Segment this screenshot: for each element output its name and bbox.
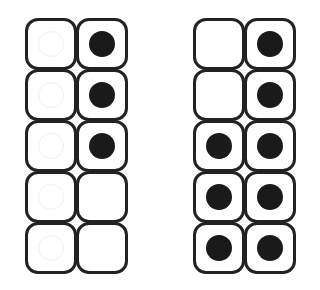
frame-cell (193, 171, 245, 223)
frame-cell (76, 222, 128, 274)
faint-circle-icon (38, 133, 64, 159)
faint-circle-icon (38, 31, 64, 57)
counter-dot-icon (206, 184, 232, 210)
counter-dot-icon (257, 235, 283, 261)
frame-cell (193, 222, 245, 274)
frame-cell (193, 18, 245, 70)
frame-cell (76, 171, 128, 223)
counter-dot-icon (89, 133, 115, 159)
ten-frame-right (193, 18, 296, 273)
frame-cell (25, 222, 77, 274)
counter-dot-icon (257, 133, 283, 159)
frame-cell (193, 120, 245, 172)
counter-dot-icon (257, 82, 283, 108)
counter-dot-icon (89, 82, 115, 108)
frame-cell (25, 171, 77, 223)
counter-dot-icon (206, 235, 232, 261)
frame-cell (76, 69, 128, 121)
frame-cell (25, 69, 77, 121)
frame-cell (76, 120, 128, 172)
frame-cell (25, 18, 77, 70)
counter-dot-icon (257, 31, 283, 57)
counter-dot-icon (89, 31, 115, 57)
counter-dot-icon (257, 184, 283, 210)
frame-cell (244, 120, 296, 172)
frame-cell (244, 69, 296, 121)
counter-dot-icon (206, 133, 232, 159)
frame-cell (193, 69, 245, 121)
faint-circle-icon (38, 184, 64, 210)
ten-frame-left (25, 18, 128, 273)
faint-circle-icon (38, 82, 64, 108)
faint-circle-icon (38, 235, 64, 261)
frame-cell (244, 222, 296, 274)
frame-cell (244, 18, 296, 70)
frame-cell (76, 18, 128, 70)
frame-cell (244, 171, 296, 223)
frame-cell (25, 120, 77, 172)
